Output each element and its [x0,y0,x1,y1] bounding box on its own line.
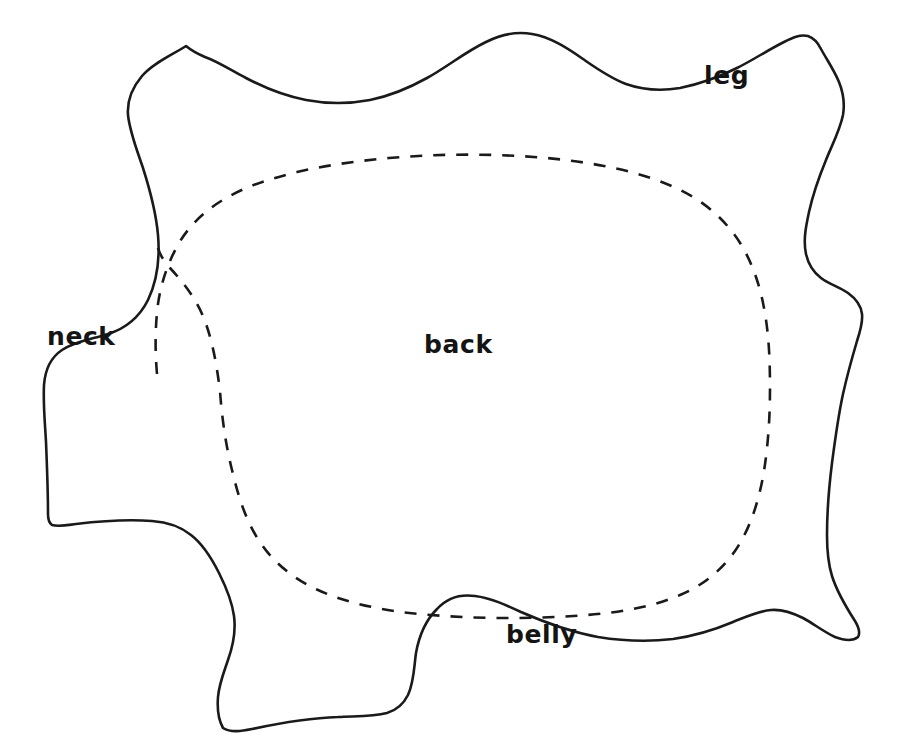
region-label-leg: leg [704,61,749,90]
region-label-belly: belly [506,620,577,649]
region-label-neck: neck [47,322,116,351]
hide-diagram-svg: neck back leg belly [0,0,919,750]
region-label-back: back [424,330,493,359]
diagram-background [0,0,919,750]
hide-diagram-root: neck back leg belly [0,0,919,750]
